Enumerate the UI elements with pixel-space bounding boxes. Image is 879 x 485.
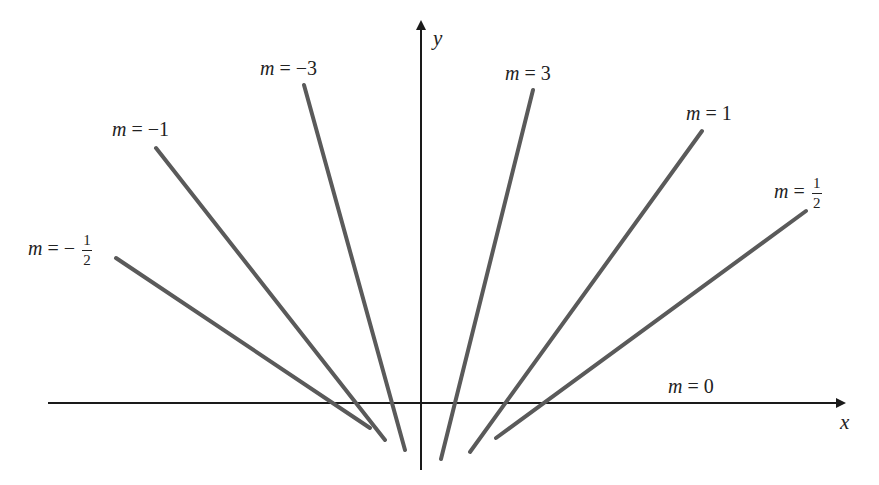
label-m-1: m = 1: [686, 103, 732, 123]
x-axis-label: x: [840, 410, 849, 435]
line-m-neg-1: [156, 148, 385, 440]
label-m-half: m = 12: [774, 176, 822, 211]
fraction-half: 12: [812, 176, 822, 211]
label-m-neg-3: m = −3: [260, 58, 317, 78]
slope-diagram: [0, 0, 879, 485]
y-axis-label: y: [433, 26, 442, 51]
label-m-neg-1: m = −1: [112, 119, 169, 139]
label-m-3: m = 3: [505, 63, 551, 83]
label-m-0: m = 0: [668, 376, 714, 396]
label-m-neg-half: m = − 12: [28, 233, 92, 268]
fraction-neg-half: 12: [82, 233, 92, 268]
